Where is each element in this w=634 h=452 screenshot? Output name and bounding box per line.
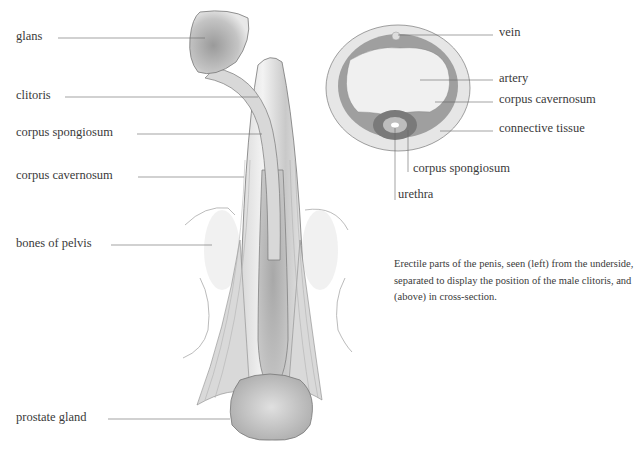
label-corpus-cavernosum: corpus cavernosum xyxy=(16,168,113,183)
label-glans: glans xyxy=(16,29,42,44)
label-connective-tissue: connective tissue xyxy=(499,121,585,136)
label-vein: vein xyxy=(499,25,521,40)
figure-caption: Erectile parts of the penis, seen (left)… xyxy=(394,256,634,306)
label-corpus-spongiosum: corpus spongiosum xyxy=(16,125,113,140)
label-urethra: urethra xyxy=(398,187,433,202)
label-cs-corpus-spongiosum: corpus spongiosum xyxy=(413,161,510,176)
label-bones-of-pelvis: bones of pelvis xyxy=(16,236,92,251)
label-cs-corpus-cavernosum: corpus cavernosum xyxy=(499,92,596,107)
prostate-shape xyxy=(230,374,312,440)
label-prostate-gland: prostate gland xyxy=(16,410,86,425)
label-artery: artery xyxy=(499,71,528,86)
label-clitoris: clitoris xyxy=(16,88,51,103)
cross-section xyxy=(326,25,470,151)
glans-shape xyxy=(190,11,249,74)
